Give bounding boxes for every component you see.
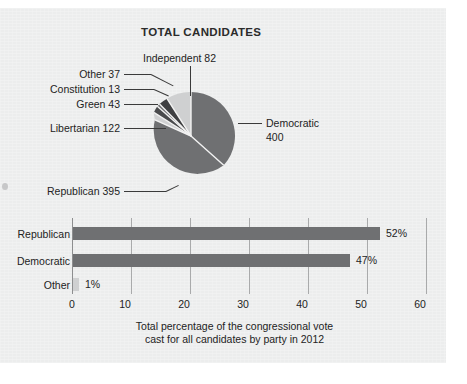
bar-row-republican: Republican bbox=[8, 228, 70, 240]
bar-chart: Republican 52% Democratic 47% Other 1% 0… bbox=[0, 214, 467, 324]
infographic-page: TOTAL CANDIDATES bbox=[0, 0, 467, 384]
leader-line-constitution-h bbox=[124, 89, 154, 90]
pie-label-green: Green 43 bbox=[50, 98, 120, 110]
pie-label-constitution: Constitution 13 bbox=[27, 83, 120, 95]
scan-artifact-icon bbox=[2, 183, 8, 190]
bar-value-other: 1% bbox=[85, 278, 100, 290]
bar-tick-label-60: 60 bbox=[405, 298, 435, 310]
caption-line-1: Total percentage of the congressional vo… bbox=[2, 320, 467, 333]
bar-other bbox=[73, 278, 79, 291]
leader-line-democratic bbox=[238, 123, 262, 124]
leader-line-other-h bbox=[124, 74, 151, 75]
bar-republican bbox=[73, 227, 380, 240]
bar-democratic bbox=[73, 254, 350, 267]
pie-label-democratic-value: 400 bbox=[266, 131, 284, 143]
bar-tick-label-20: 20 bbox=[169, 298, 199, 310]
leader-line-independent bbox=[190, 66, 191, 96]
bar-tick-label-30: 30 bbox=[228, 298, 258, 310]
leader-line-green-h bbox=[124, 104, 158, 105]
bar-category-label-other: Other bbox=[8, 279, 70, 291]
pie-label-other: Other 37 bbox=[57, 68, 120, 80]
bar-row-democratic: Democratic bbox=[8, 255, 70, 267]
pie-label-republican: Republican 395 bbox=[20, 185, 120, 197]
bar-category-label-democratic: Democratic bbox=[8, 255, 70, 267]
caption-line-2: cast for all candidates by party in 2012 bbox=[2, 333, 467, 346]
leader-line-libertarian-h bbox=[124, 128, 166, 129]
pie-label-libertarian: Libertarian 122 bbox=[24, 122, 120, 134]
bar-tick-label-10: 10 bbox=[110, 298, 140, 310]
bar-chart-caption: Total percentage of the congressional vo… bbox=[0, 320, 467, 346]
leader-line-republican-h bbox=[124, 191, 166, 192]
bar-value-democratic: 47% bbox=[356, 254, 377, 266]
pie-chart-title: TOTAL CANDIDATES bbox=[141, 26, 261, 38]
bar-row-other: Other bbox=[8, 279, 70, 291]
bar-tick-label-40: 40 bbox=[287, 298, 317, 310]
pie-chart-svg bbox=[147, 92, 235, 180]
bar-tick-label-50: 50 bbox=[346, 298, 376, 310]
bar-tick-label-0: 0 bbox=[57, 298, 87, 310]
bar-category-label-republican: Republican bbox=[8, 228, 70, 240]
bar-value-republican: 52% bbox=[386, 227, 407, 239]
pie-label-independent: Independent 82 bbox=[143, 52, 216, 64]
pie-label-democratic: Democratic bbox=[266, 117, 319, 129]
bar-gridline-60 bbox=[426, 218, 427, 294]
pie-chart bbox=[147, 92, 235, 180]
